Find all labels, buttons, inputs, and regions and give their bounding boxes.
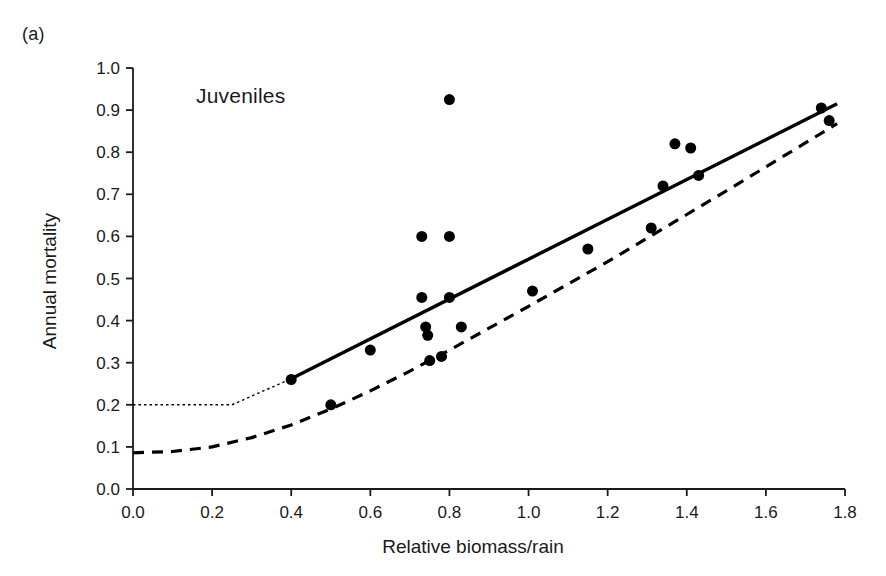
data-point xyxy=(444,231,455,242)
x-axis-title: Relative biomass/rain xyxy=(0,536,886,558)
fit-lines xyxy=(133,104,837,453)
data-point xyxy=(669,138,680,149)
x-tick-label: 0.6 xyxy=(359,503,383,522)
x-axis: 0.00.20.40.60.81.01.21.41.61.8 xyxy=(121,489,857,522)
data-point xyxy=(416,292,427,303)
data-point xyxy=(658,180,669,191)
x-tick-label: 1.2 xyxy=(596,503,620,522)
x-axis-title-text: Relative biomass/rain xyxy=(322,536,564,557)
data-point xyxy=(824,115,835,126)
y-tick-label: 1.0 xyxy=(96,59,120,78)
fit-line-linear-fit-solid xyxy=(291,104,837,379)
y-tick-label: 0.0 xyxy=(96,480,120,499)
y-axis: 0.00.10.20.30.40.50.60.70.80.91.0 xyxy=(96,59,133,499)
y-tick-label: 0.6 xyxy=(96,227,120,246)
x-tick-label: 1.0 xyxy=(517,503,541,522)
y-tick-label: 0.7 xyxy=(96,185,120,204)
data-point xyxy=(527,286,538,297)
y-axis-title: Annual mortality xyxy=(39,111,61,451)
data-point xyxy=(816,103,827,114)
data-point xyxy=(582,244,593,255)
fit-line-linear-fit-extrapolation-dotted xyxy=(133,379,291,405)
y-tick-label: 0.4 xyxy=(96,312,120,331)
x-tick-label: 0.0 xyxy=(121,503,145,522)
x-tick-label: 1.8 xyxy=(833,503,857,522)
data-point xyxy=(416,231,427,242)
y-tick-label: 0.5 xyxy=(96,270,120,289)
data-point xyxy=(456,321,467,332)
y-tick-label: 0.2 xyxy=(96,396,120,415)
x-tick-label: 0.2 xyxy=(200,503,224,522)
x-tick-label: 1.6 xyxy=(754,503,778,522)
y-tick-label: 0.3 xyxy=(96,354,120,373)
x-tick-label: 0.8 xyxy=(438,503,462,522)
data-point xyxy=(444,94,455,105)
data-point xyxy=(693,170,704,181)
data-points xyxy=(286,94,835,410)
figure-panel: (a) Juveniles 0.00.10.20.30.40.50.60.70.… xyxy=(0,0,886,576)
data-point xyxy=(646,223,657,234)
data-point xyxy=(325,399,336,410)
x-tick-label: 1.4 xyxy=(675,503,699,522)
y-tick-label: 0.8 xyxy=(96,143,120,162)
scatter-plot: 0.00.10.20.30.40.50.60.70.80.91.0 0.00.2… xyxy=(0,0,886,576)
data-point xyxy=(436,351,447,362)
data-point xyxy=(444,292,455,303)
y-tick-label: 0.9 xyxy=(96,101,120,120)
data-point xyxy=(286,374,297,385)
data-point xyxy=(685,143,696,154)
x-tick-label: 0.4 xyxy=(279,503,303,522)
data-point xyxy=(422,330,433,341)
y-tick-label: 0.1 xyxy=(96,438,120,457)
fit-line-curve-fit-dashed xyxy=(133,124,837,453)
data-point xyxy=(424,355,435,366)
data-point xyxy=(365,345,376,356)
